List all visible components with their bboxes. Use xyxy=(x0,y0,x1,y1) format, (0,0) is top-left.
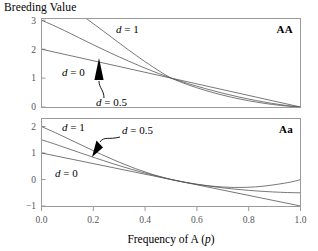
ytick-label: 1 xyxy=(31,148,36,158)
panel-AA-genotype-label: AA xyxy=(277,23,294,35)
xtick-label: 0.4 xyxy=(139,215,151,225)
annotation-d-equals-0-5: d = 0.5 xyxy=(96,96,127,108)
chart-svg: 3 2 1 0 d = 1 d = 0 d = 0.5 AA xyxy=(0,0,318,251)
xaxis-title-main: Frequency of A ( xyxy=(127,233,205,246)
annotation-d-equals-1: d = 1 xyxy=(116,23,139,35)
ytick-label: 0 xyxy=(31,102,36,112)
xtick-label: 0.2 xyxy=(87,215,99,225)
ytick-label: 1 xyxy=(31,73,36,83)
xaxis: 0.0 0.2 0.4 0.6 0.8 1.0 xyxy=(36,207,307,226)
ytick-label: 0 xyxy=(31,175,36,185)
panel-AA-frame xyxy=(42,19,301,108)
xtick-label: 1.0 xyxy=(295,215,307,225)
figure-container: Breeding Value 3 2 1 0 xyxy=(0,0,318,251)
ytick-label: −1 xyxy=(26,201,36,211)
panel-Aa-genotype-label: Aa xyxy=(279,123,293,135)
ytick-label: 2 xyxy=(31,45,36,55)
xtick-label: 0.0 xyxy=(36,215,48,225)
panel-Aa: 2 1 0 −1 d = 1 d = 0.5 d = 0 Aa xyxy=(26,119,301,212)
xtick-label: 0.6 xyxy=(191,215,203,225)
annotation-d-equals-0-5: d = 0.5 xyxy=(122,124,153,136)
annotation-d-equals-0: d = 0 xyxy=(62,66,85,78)
ytick-label: 3 xyxy=(31,16,36,26)
annotation-d-equals-1: d = 1 xyxy=(62,121,85,133)
xaxis-title-end: ) xyxy=(211,233,215,246)
ytick-label: 2 xyxy=(31,122,36,132)
xaxis-title: Frequency of A (p) xyxy=(127,233,214,246)
panel-AA: 3 2 1 0 d = 1 d = 0 d = 0.5 AA xyxy=(31,0,300,112)
annotation-d-equals-0: d = 0 xyxy=(55,167,78,179)
xtick-label: 0.8 xyxy=(243,215,255,225)
